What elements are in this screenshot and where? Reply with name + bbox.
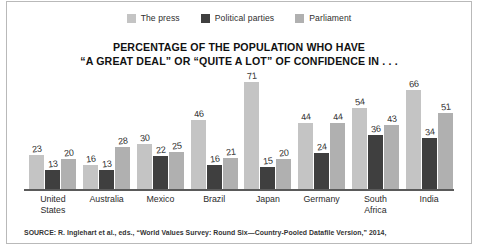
bar bbox=[115, 147, 130, 189]
bar-group: 663451 bbox=[406, 76, 453, 189]
source-note: SOURCE: R. Inglehart et al., eds., “Worl… bbox=[24, 229, 464, 236]
bar bbox=[330, 123, 345, 189]
bar bbox=[223, 158, 238, 190]
bar-group: 161328 bbox=[83, 76, 130, 189]
bar-column: 24 bbox=[314, 76, 329, 189]
bar-column: 16 bbox=[83, 76, 98, 189]
bar-column: 44 bbox=[330, 76, 345, 189]
bar bbox=[61, 159, 76, 189]
chart-title: PERCENTAGE OF THE POPULATION WHO HAVE “A… bbox=[0, 40, 478, 68]
bar bbox=[244, 82, 259, 189]
bar-column: 46 bbox=[191, 76, 206, 189]
legend-item-parliament: Parliament bbox=[295, 13, 351, 23]
bar-value-label: 44 bbox=[323, 110, 354, 124]
bar-group: 711520 bbox=[244, 76, 291, 189]
bar-column: 43 bbox=[384, 76, 399, 189]
bar bbox=[422, 138, 437, 189]
bar-column: 15 bbox=[260, 76, 275, 189]
bar-group: 442444 bbox=[298, 76, 345, 189]
bar-column: 16 bbox=[207, 76, 222, 189]
legend-swatch-parliament bbox=[295, 14, 304, 23]
bar bbox=[260, 167, 275, 190]
bar bbox=[298, 123, 313, 189]
x-axis-label-line: India bbox=[394, 194, 464, 205]
bar-column: 22 bbox=[153, 76, 168, 189]
bar bbox=[169, 152, 184, 190]
bar-group: 302225 bbox=[137, 76, 184, 189]
legend-label-press: The press bbox=[141, 13, 180, 23]
bar bbox=[368, 135, 383, 189]
bar-column: 28 bbox=[115, 76, 130, 189]
x-axis-label-line: Africa bbox=[340, 205, 410, 216]
x-axis-line bbox=[24, 189, 454, 191]
bar bbox=[314, 153, 329, 189]
x-axis-label: India bbox=[394, 194, 464, 205]
bar-group: 461621 bbox=[191, 76, 238, 189]
bar bbox=[153, 156, 168, 189]
bar bbox=[276, 159, 291, 189]
x-axis-category-labels: UnitedStatesAustraliaMexicoBrazilJapanGe… bbox=[24, 194, 454, 220]
bar bbox=[45, 170, 60, 190]
chart-title-line-2: “A GREAT DEAL” OR “QUITE A LOT” OF CONFI… bbox=[0, 54, 478, 68]
bar-column: 34 bbox=[422, 76, 437, 189]
legend-item-press: The press bbox=[127, 13, 180, 23]
chart-title-line-1: PERCENTAGE OF THE POPULATION WHO HAVE bbox=[0, 40, 478, 54]
x-axis-label-line: States bbox=[18, 205, 88, 216]
bar-column: 44 bbox=[298, 76, 313, 189]
bar bbox=[438, 113, 453, 190]
bar bbox=[406, 90, 421, 189]
chart-legend: The press Political parties Parliament bbox=[0, 13, 478, 23]
bar-value-label: 20 bbox=[269, 146, 300, 160]
legend-item-political-parties: Political parties bbox=[201, 13, 275, 23]
legend-swatch-political-parties bbox=[201, 14, 210, 23]
bar bbox=[207, 165, 222, 189]
chart-figure: The press Political parties Parliament P… bbox=[0, 0, 478, 246]
bar-column: 23 bbox=[29, 76, 44, 189]
plot-area: 2313201613283022254616217115204424445436… bbox=[24, 76, 454, 191]
legend-label-parliament: Parliament bbox=[309, 13, 351, 23]
bar-column: 25 bbox=[169, 76, 184, 189]
bar bbox=[352, 108, 367, 189]
bar-group: 231320 bbox=[29, 76, 76, 189]
bar-column: 20 bbox=[276, 76, 291, 189]
bar-column: 71 bbox=[244, 76, 259, 189]
bar-column: 13 bbox=[99, 76, 114, 189]
bar-column: 21 bbox=[223, 76, 238, 189]
bar bbox=[384, 125, 399, 190]
bar-column: 51 bbox=[438, 76, 453, 189]
bar-group: 543643 bbox=[352, 76, 399, 189]
bar-column: 13 bbox=[45, 76, 60, 189]
legend-swatch-press bbox=[127, 14, 136, 23]
bar-column: 36 bbox=[368, 76, 383, 189]
bar bbox=[99, 170, 114, 190]
legend-label-political-parties: Political parties bbox=[215, 13, 275, 23]
bar-column: 20 bbox=[61, 76, 76, 189]
bar-column: 30 bbox=[137, 76, 152, 189]
